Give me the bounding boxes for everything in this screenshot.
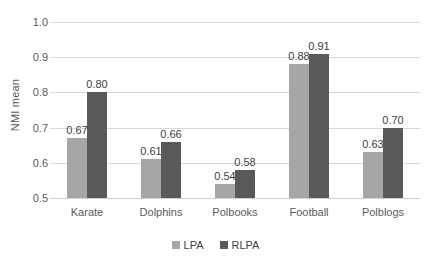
bar-value-label: 0.70: [382, 114, 403, 126]
bar-column: 0.80: [87, 22, 107, 198]
bar-column: 0.58: [235, 22, 255, 198]
y-axis-tick-label: 0.5: [33, 192, 48, 204]
y-axis-tick-label: 0.9: [33, 51, 48, 63]
bar-lpa[interactable]: [363, 152, 383, 198]
bar-column: 0.91: [309, 22, 329, 198]
x-axis-tick-label: Dolphins: [124, 202, 198, 224]
bar-lpa[interactable]: [141, 159, 161, 198]
bar-pair: 0.610.66: [124, 22, 198, 198]
legend-item-rlpa[interactable]: RLPA: [220, 239, 260, 251]
legend-label: RLPA: [232, 239, 260, 251]
bar-lpa[interactable]: [215, 184, 235, 198]
bar-group: 0.540.58: [198, 22, 272, 198]
bar-rlpa[interactable]: [161, 142, 181, 198]
legend-swatch-icon: [172, 241, 180, 249]
bar-rlpa[interactable]: [309, 54, 329, 198]
bar-rlpa[interactable]: [383, 128, 403, 198]
bar-value-label: 0.58: [234, 156, 255, 168]
x-axis-tick-label: Football: [272, 202, 346, 224]
bar-value-label: 0.80: [86, 78, 107, 90]
bar-pair: 0.540.58: [198, 22, 272, 198]
bar-column: 0.66: [161, 22, 181, 198]
bar-lpa[interactable]: [289, 64, 309, 198]
bar-pair: 0.630.70: [346, 22, 420, 198]
bar-pair: 0.670.80: [50, 22, 124, 198]
legend-label: LPA: [184, 239, 204, 251]
bar-value-label: 0.63: [362, 138, 383, 150]
y-axis-tick-label: 1.0: [33, 16, 48, 28]
plot-area: 0.670.800.610.660.540.580.880.910.630.70: [50, 22, 420, 198]
bar-column: 0.54: [215, 22, 235, 198]
bar-group: 0.630.70: [346, 22, 420, 198]
y-axis-tick-labels: 1.00.90.80.70.60.5: [24, 22, 48, 198]
bar-value-label: 0.91: [308, 40, 329, 52]
x-axis-tick-label: Polblogs: [346, 202, 420, 224]
bar-value-label: 0.61: [140, 145, 161, 157]
bar-pair: 0.880.91: [272, 22, 346, 198]
bar-lpa[interactable]: [67, 138, 87, 198]
y-axis-tick-label: 0.7: [33, 122, 48, 134]
bar-group: 0.610.66: [124, 22, 198, 198]
y-axis-title-text: NMI mean: [9, 79, 21, 131]
bar-column: 0.61: [141, 22, 161, 198]
bar-value-label: 0.66: [160, 128, 181, 140]
bar-chart: NMI mean 1.00.90.80.70.60.5 0.670.800.61…: [0, 0, 431, 263]
bar-groups: 0.670.800.610.660.540.580.880.910.630.70: [50, 22, 420, 198]
x-axis-tick-label: Karate: [50, 202, 124, 224]
bar-rlpa[interactable]: [87, 92, 107, 198]
bar-column: 0.63: [363, 22, 383, 198]
legend-swatch-icon: [220, 241, 228, 249]
bar-column: 0.70: [383, 22, 403, 198]
bar-group: 0.670.80: [50, 22, 124, 198]
chart-legend: LPARLPA: [0, 236, 431, 254]
gridline: [50, 198, 420, 199]
bar-column: 0.67: [67, 22, 87, 198]
bar-rlpa[interactable]: [235, 170, 255, 198]
x-axis-tick-labels: KarateDolphinsPolbooksFootballPolblogs: [50, 202, 420, 224]
bar-value-label: 0.67: [66, 124, 87, 136]
legend-item-lpa[interactable]: LPA: [172, 239, 204, 251]
bar-column: 0.88: [289, 22, 309, 198]
y-axis-tick-label: 0.6: [33, 157, 48, 169]
bar-value-label: 0.54: [214, 170, 235, 182]
y-axis-tick-label: 0.8: [33, 86, 48, 98]
x-axis-tick-label: Polbooks: [198, 202, 272, 224]
bar-group: 0.880.91: [272, 22, 346, 198]
bar-value-label: 0.88: [288, 50, 309, 62]
